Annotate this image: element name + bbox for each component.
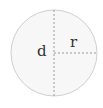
diameter-label: d: [37, 42, 47, 60]
circle-diagram: d r: [0, 0, 103, 108]
radius-label: r: [70, 33, 78, 51]
